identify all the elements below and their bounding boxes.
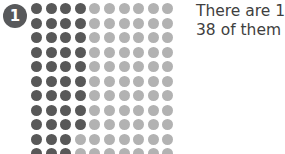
dot-unshaded xyxy=(89,32,100,43)
dot-unshaded xyxy=(133,18,144,29)
dot-shaded xyxy=(60,3,71,14)
dot-shaded xyxy=(31,148,42,154)
dot-shaded xyxy=(31,76,42,87)
dot-unshaded xyxy=(148,119,159,130)
dot-unshaded xyxy=(133,119,144,130)
dot-shaded xyxy=(75,119,86,130)
dot-unshaded xyxy=(89,90,100,101)
dot-shaded xyxy=(60,32,71,43)
dot-unshaded xyxy=(75,134,86,145)
dot-unshaded xyxy=(89,105,100,116)
dot-shaded xyxy=(60,90,71,101)
problem-text-line: 38 of them a xyxy=(196,21,285,40)
dot-unshaded xyxy=(133,3,144,14)
dot-unshaded xyxy=(133,32,144,43)
dot-shaded xyxy=(46,61,57,72)
dot-unshaded xyxy=(104,61,115,72)
dot-unshaded xyxy=(148,32,159,43)
dot-unshaded xyxy=(104,3,115,14)
dot-unshaded xyxy=(133,134,144,145)
dot-grid xyxy=(31,3,179,154)
dot-unshaded xyxy=(104,119,115,130)
dot-row xyxy=(31,148,179,154)
dot-unshaded xyxy=(162,3,173,14)
worksheet-item: 1 There are 1038 of them a xyxy=(0,0,285,154)
dot-unshaded xyxy=(133,90,144,101)
dot-shaded xyxy=(46,47,57,58)
dot-row xyxy=(31,105,179,120)
dot-row xyxy=(31,32,179,47)
dot-shaded xyxy=(75,76,86,87)
dot-unshaded xyxy=(133,61,144,72)
dot-unshaded xyxy=(119,3,130,14)
dot-unshaded xyxy=(119,148,130,154)
dot-shaded xyxy=(60,105,71,116)
dot-row xyxy=(31,47,179,62)
dot-unshaded xyxy=(119,105,130,116)
dot-shaded xyxy=(46,90,57,101)
dot-unshaded xyxy=(162,47,173,58)
dot-unshaded xyxy=(89,18,100,29)
dot-unshaded xyxy=(162,148,173,154)
dot-shaded xyxy=(75,61,86,72)
dot-unshaded xyxy=(89,76,100,87)
dot-unshaded xyxy=(89,3,100,14)
dot-unshaded xyxy=(133,148,144,154)
dot-unshaded xyxy=(133,76,144,87)
dot-unshaded xyxy=(162,90,173,101)
dot-row xyxy=(31,3,179,18)
dot-unshaded xyxy=(162,134,173,145)
dot-shaded xyxy=(31,61,42,72)
dot-shaded xyxy=(60,76,71,87)
dot-unshaded xyxy=(104,90,115,101)
dot-unshaded xyxy=(148,90,159,101)
dot-row xyxy=(31,18,179,33)
dot-shaded xyxy=(46,3,57,14)
dot-row xyxy=(31,90,179,105)
dot-unshaded xyxy=(119,76,130,87)
dot-shaded xyxy=(46,119,57,130)
dot-unshaded xyxy=(133,105,144,116)
dot-row xyxy=(31,134,179,149)
dot-unshaded xyxy=(148,61,159,72)
dot-shaded xyxy=(31,105,42,116)
dot-unshaded xyxy=(119,47,130,58)
dot-shaded xyxy=(75,105,86,116)
dot-unshaded xyxy=(119,90,130,101)
dot-unshaded xyxy=(148,148,159,154)
dot-unshaded xyxy=(104,105,115,116)
dot-unshaded xyxy=(89,119,100,130)
dot-shaded xyxy=(31,32,42,43)
dot-shaded xyxy=(31,47,42,58)
dot-unshaded xyxy=(104,18,115,29)
dot-unshaded xyxy=(162,18,173,29)
dot-unshaded xyxy=(89,134,100,145)
problem-text-line: There are 10 xyxy=(196,2,285,21)
dot-unshaded xyxy=(89,148,100,154)
dot-unshaded xyxy=(104,32,115,43)
dot-unshaded xyxy=(104,148,115,154)
dot-shaded xyxy=(75,90,86,101)
dot-unshaded xyxy=(162,105,173,116)
item-number-badge: 1 xyxy=(3,4,27,28)
dot-shaded xyxy=(60,119,71,130)
dot-unshaded xyxy=(89,61,100,72)
dot-shaded xyxy=(46,32,57,43)
dot-shaded xyxy=(60,148,71,154)
dot-unshaded xyxy=(119,134,130,145)
dot-unshaded xyxy=(104,134,115,145)
dot-shaded xyxy=(46,148,57,154)
dot-unshaded xyxy=(75,148,86,154)
dot-shaded xyxy=(75,47,86,58)
dot-unshaded xyxy=(119,32,130,43)
dot-shaded xyxy=(60,18,71,29)
dot-row xyxy=(31,119,179,134)
dot-unshaded xyxy=(119,61,130,72)
dot-shaded xyxy=(31,134,42,145)
dot-shaded xyxy=(75,3,86,14)
dot-shaded xyxy=(46,76,57,87)
dot-unshaded xyxy=(162,119,173,130)
dot-unshaded xyxy=(148,134,159,145)
dot-shaded xyxy=(31,119,42,130)
dot-shaded xyxy=(46,134,57,145)
